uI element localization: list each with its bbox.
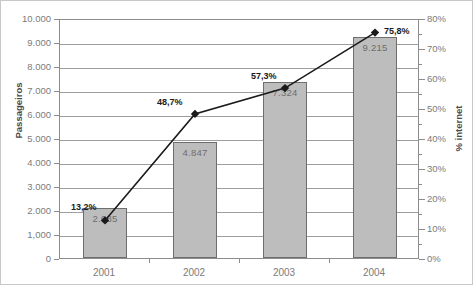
y-axis-tick-label: 1,000 xyxy=(5,230,51,240)
bar: 2.085 xyxy=(83,208,127,258)
x-axis-tick-mark xyxy=(329,259,330,263)
line-point-label: 48,7% xyxy=(157,97,183,107)
bar-value-label: 9.215 xyxy=(354,42,396,53)
y-axis-tick-label: 6.000 xyxy=(5,110,51,120)
chart-title xyxy=(1,0,473,3)
x-axis-tick-label: 2003 xyxy=(239,267,329,278)
bar: 7.324 xyxy=(263,82,307,258)
y-axis-tick-label: 8.000 xyxy=(5,62,51,72)
line-point-label: 13,2% xyxy=(71,202,97,212)
x-axis-tick-label: 2001 xyxy=(59,267,149,278)
bar: 4.847 xyxy=(173,142,217,258)
y-axis-tick-label: 2.000 xyxy=(5,206,51,216)
y2-axis-tick-mark xyxy=(419,169,425,170)
y-axis-tick-label: 0 xyxy=(5,254,51,264)
bar-value-label: 7.324 xyxy=(264,87,306,98)
y-axis-tick-label: 4.000 xyxy=(5,158,51,168)
y2-axis-tick-label: 0% xyxy=(427,254,467,264)
y-axis-tick-label: 3.000 xyxy=(5,182,51,192)
y2-axis-minor-tick-mark xyxy=(419,184,422,185)
y2-axis-tick-mark xyxy=(419,259,425,260)
y-axis-tick-mark xyxy=(54,259,59,260)
y2-axis-minor-tick-mark xyxy=(419,244,422,245)
y2-axis-minor-tick-mark xyxy=(419,34,422,35)
y2-axis-tick-label: 70% xyxy=(427,44,467,54)
y2-axis-tick-label: 10% xyxy=(427,224,467,234)
x-axis-tick-label: 2004 xyxy=(329,267,419,278)
y2-axis-minor-tick-mark xyxy=(419,124,422,125)
x-axis-tick-mark xyxy=(149,259,150,263)
x-axis-tick-label: 2002 xyxy=(149,267,239,278)
y-axis-tick-label: 9.000 xyxy=(5,38,51,48)
y2-axis-tick-mark xyxy=(419,139,425,140)
y2-axis-tick-mark xyxy=(419,199,425,200)
y2-axis-tick-label: 60% xyxy=(427,74,467,84)
y2-axis-minor-tick-mark xyxy=(419,214,422,215)
y2-axis-minor-tick-mark xyxy=(419,154,422,155)
y2-axis-minor-tick-mark xyxy=(419,94,422,95)
line-marker xyxy=(371,28,379,36)
y2-axis-tick-mark xyxy=(419,19,425,20)
y-axis-tick-label: 7.000 xyxy=(5,86,51,96)
y-axis-tick-label: 5.000 xyxy=(5,134,51,144)
y2-axis-tick-label: 50% xyxy=(427,104,467,114)
line-point-label: 57,3% xyxy=(251,71,277,81)
y2-axis-tick-mark xyxy=(419,229,425,230)
y2-axis-tick-mark xyxy=(419,49,425,50)
y2-axis-minor-tick-mark xyxy=(419,64,422,65)
bar-value-label: 2.085 xyxy=(84,213,126,224)
bar-value-label: 4.847 xyxy=(174,147,216,158)
y2-axis-tick-mark xyxy=(419,79,425,80)
y2-axis-tick-label: 40% xyxy=(427,134,467,144)
chart-figure: Passageiros % internet 01,0002.0003.0004… xyxy=(0,0,473,285)
x-axis-tick-mark xyxy=(239,259,240,263)
y2-axis-tick-label: 80% xyxy=(427,14,467,24)
y2-axis-tick-label: 20% xyxy=(427,194,467,204)
y-axis-tick-label: 10.000 xyxy=(5,14,51,24)
plot-area: 2.0854.8477.3249.215 13,2%48,7%57,3%75,8… xyxy=(59,19,419,259)
line-point-label: 75,8% xyxy=(384,26,410,36)
bar: 9.215 xyxy=(353,37,397,258)
line-path xyxy=(105,33,375,221)
y2-axis-tick-mark xyxy=(419,109,425,110)
y2-axis-tick-label: 30% xyxy=(427,164,467,174)
